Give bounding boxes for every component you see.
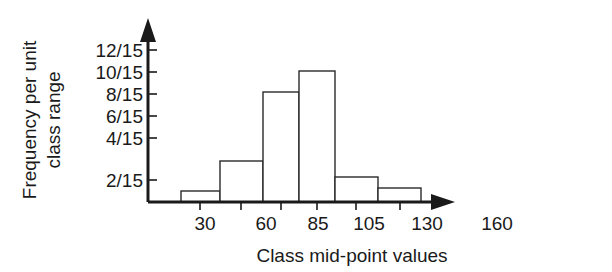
histogram-bar [263,92,299,202]
y-axis-arrow-icon [140,18,156,42]
y-tick-label: 12/15 [95,40,143,61]
x-axis-arrow-icon [431,194,455,210]
y-tick-labels: 12/15 10/15 8/15 6/15 4/15 2/15 [95,40,143,191]
histogram-bar [335,177,378,202]
y-axis-title-line-2: class range [43,71,64,168]
x-tick-label: 130 [411,213,443,234]
x-tick-label: 105 [353,213,385,234]
y-tick-label: 10/15 [95,62,143,83]
x-tick-label: 160 [481,213,513,234]
histogram-bar [181,191,220,202]
x-tick-label: 30 [194,213,215,234]
histogram-chart: 12/15 10/15 8/15 6/15 4/15 2/15 30 60 85… [0,0,612,272]
x-tick-labels: 30 60 85 105 130 160 [194,213,512,234]
y-axis-title-line-1: Frequency per unit [19,40,40,199]
bars-group [181,71,421,202]
x-axis-title: Class mid-point values [256,245,447,266]
x-tick-label: 60 [255,213,276,234]
histogram-bar [220,161,263,202]
y-tick-label: 6/15 [106,106,143,127]
x-tick-label: 85 [307,213,328,234]
y-tick-label: 4/15 [106,128,143,149]
histogram-figure: 12/15 10/15 8/15 6/15 4/15 2/15 30 60 85… [0,0,612,272]
y-tick-label: 8/15 [106,84,143,105]
y-tick-label: 2/15 [106,170,143,191]
histogram-bar [378,188,421,202]
histogram-bar [299,71,335,202]
